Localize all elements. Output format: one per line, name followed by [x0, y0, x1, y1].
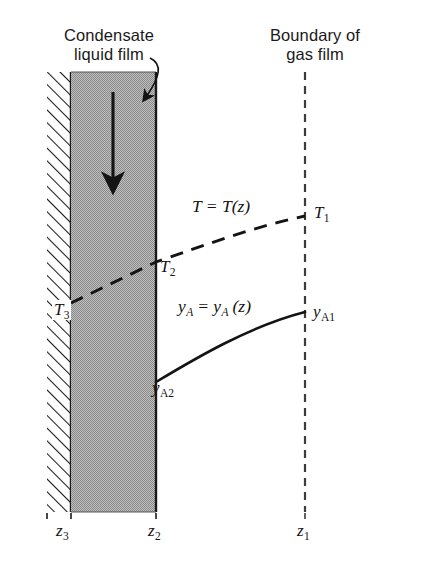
concentration-function-label: yA = yA (z)	[178, 296, 251, 317]
T1-base: T	[314, 203, 323, 222]
temperature-function-label: T = T(z)	[192, 196, 250, 217]
label-z3: z3	[56, 521, 68, 541]
z3-subscript: 3	[63, 530, 69, 542]
z1-subscript: 1	[304, 530, 310, 542]
label-T3: T3	[52, 300, 71, 320]
yA1-subscript: A1	[321, 311, 335, 323]
z2-base: z	[148, 521, 155, 540]
label-T2: T2	[160, 257, 175, 277]
T3-base: T	[54, 300, 63, 319]
concentration-profile-curve	[156, 312, 305, 382]
yfunc-eq: = y	[193, 296, 221, 316]
z2-subscript: 2	[155, 530, 161, 542]
yfunc-y1: y	[178, 296, 186, 316]
yA2-base: y	[152, 378, 160, 397]
z3-base: z	[56, 521, 63, 540]
label-z1: z1	[297, 521, 309, 541]
header-condensate-liquid-film: Condensate liquid film	[34, 26, 184, 64]
z1-base: z	[297, 521, 304, 540]
solid-wall-region	[47, 72, 71, 512]
yA2-subscript: A2	[160, 387, 174, 399]
label-yA2: yA2	[152, 378, 174, 398]
T3-subscript: 3	[64, 309, 70, 321]
label-yA1: yA1	[313, 302, 335, 322]
axis-ticks	[47, 513, 305, 519]
yfunc-sub2: A	[222, 306, 229, 318]
diagram-canvas	[0, 0, 428, 564]
yfunc-tail: (z)	[228, 296, 251, 316]
header-boundary-gas-film: Boundary of gas film	[240, 26, 390, 64]
figure-root: Condensate liquid film Boundary of gas f…	[0, 0, 428, 564]
T1-subscript: 1	[324, 212, 330, 224]
label-T1: T1	[314, 203, 329, 223]
label-z2: z2	[148, 521, 160, 541]
yA1-base: y	[313, 302, 321, 321]
T2-subscript: 2	[170, 266, 176, 278]
T2-base: T	[160, 257, 169, 276]
yfunc-sub1: A	[186, 306, 193, 318]
